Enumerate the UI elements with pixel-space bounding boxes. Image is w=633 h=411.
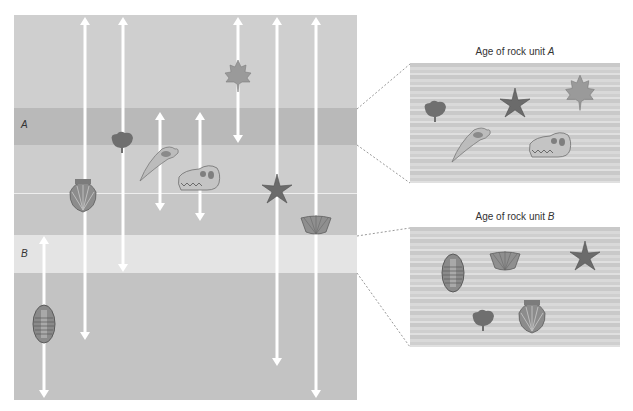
ginkgo-leaf-icon	[112, 132, 133, 153]
dinosaur-skull-icon	[178, 166, 219, 190]
panel-a-starfish-icon	[500, 88, 530, 117]
panel-b-trilobite-icon	[442, 254, 464, 292]
panel-b-brachiopod-icon	[490, 251, 520, 270]
range-arrow-brachiopod	[311, 17, 321, 398]
panel-b-scallop-shell-icon	[519, 300, 545, 333]
panel-a-dinosaur-skull-icon	[529, 133, 570, 157]
panel-a-ginkgo-icon	[425, 101, 446, 122]
panel-b-starfish-icon	[570, 241, 600, 270]
trilobite-icon	[33, 305, 55, 343]
connector-lines	[357, 64, 410, 347]
maple-leaf-icon	[225, 60, 251, 92]
figure: A B Age of rock unit A Age of rock unit …	[0, 0, 633, 411]
panel-b-ginkgo-icon	[473, 310, 494, 331]
brachiopod-icon	[301, 215, 331, 234]
diagram-overlay	[0, 0, 633, 411]
panel-a-bird-skull-icon	[452, 128, 490, 162]
scallop-shell-icon	[70, 179, 96, 212]
range-arrow-scallop	[80, 17, 90, 340]
panel-a-maple-icon	[566, 75, 595, 110]
